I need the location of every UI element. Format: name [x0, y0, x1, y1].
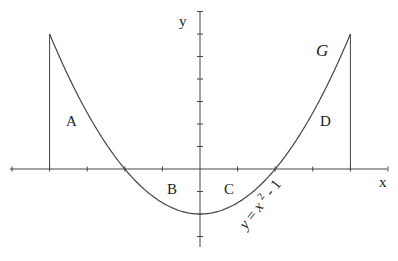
axes	[10, 11, 388, 247]
y-axis-label: y	[179, 13, 187, 29]
parabola-area-diagram: y x G A B C D y = x 2 - 1	[0, 0, 398, 261]
diagram-canvas: y x G A B C D y = x 2 - 1	[0, 0, 398, 261]
region-label-b: B	[167, 181, 177, 197]
region-label-c: C	[224, 181, 234, 197]
x-axis-label: x	[379, 174, 387, 190]
curve-name-label: G	[316, 41, 328, 60]
region-label-a: A	[66, 113, 77, 129]
region-label-d: D	[320, 113, 331, 129]
